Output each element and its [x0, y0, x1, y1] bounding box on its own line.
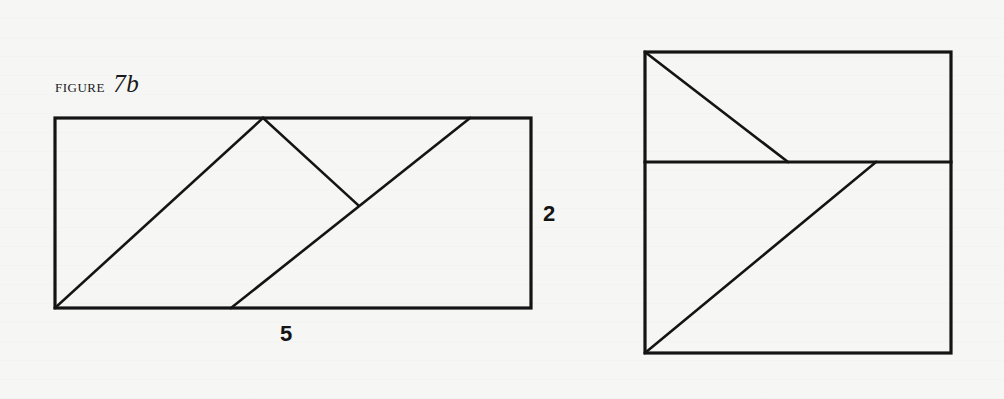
- left-perpendicular: [263, 118, 358, 205]
- right-figure: [645, 52, 951, 353]
- left-diagonal-1: [55, 118, 263, 308]
- right-lower-diagonal: [645, 162, 876, 353]
- width-label: 5: [280, 321, 292, 347]
- right-rectangle: [645, 52, 951, 353]
- figure-diagram: [0, 0, 1004, 399]
- right-upper-diagonal: [645, 52, 788, 162]
- left-figure: [55, 118, 531, 308]
- height-label: 2: [543, 201, 555, 227]
- left-diagonal-2: [231, 118, 470, 308]
